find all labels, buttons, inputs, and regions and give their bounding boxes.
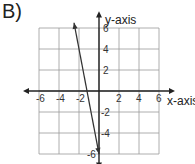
svg-text:-2: -2	[76, 93, 85, 104]
svg-text:-6: -6	[87, 149, 96, 160]
svg-text:-6: -6	[36, 93, 45, 104]
coordinate-plane: -6-4-2246642-2-4-6 x-axis y-axis	[0, 0, 195, 164]
svg-text:-4: -4	[56, 93, 65, 104]
svg-text:4: 4	[136, 93, 142, 104]
svg-text:-2: -2	[101, 107, 110, 118]
svg-text:2: 2	[116, 93, 122, 104]
svg-text:4: 4	[103, 44, 109, 55]
svg-text:2: 2	[103, 65, 109, 76]
data-line	[73, 23, 101, 154]
svg-text:6: 6	[156, 93, 162, 104]
y-axis-label: y-axis	[105, 13, 136, 27]
svg-text:-4: -4	[101, 128, 110, 139]
x-axis-label: x-axis	[167, 94, 195, 108]
axes	[23, 11, 175, 164]
